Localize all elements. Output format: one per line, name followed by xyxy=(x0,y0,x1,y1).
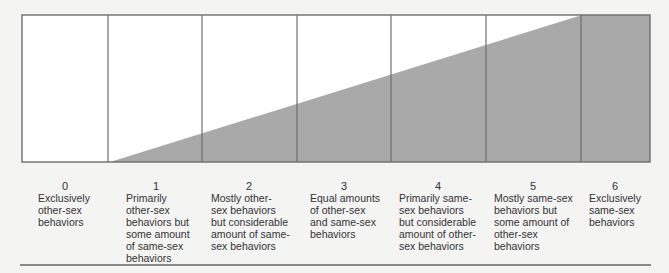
description-line: behaviors xyxy=(38,216,130,228)
kinsey-scale-diagram: 0Exclusivelyother-sexbehaviors1Primarily… xyxy=(0,0,669,273)
description-line: other-sex xyxy=(126,204,218,216)
description-line: other-sex xyxy=(38,204,130,216)
description-line: but considerable xyxy=(211,216,303,228)
description-line: amount of other- xyxy=(399,228,491,240)
description-line: but considerable xyxy=(399,216,491,228)
scale-value-4: 4 xyxy=(428,180,448,192)
scale-description-3: Equal amountsof other-sexand same-sexbeh… xyxy=(310,192,402,240)
description-line: sex behaviors xyxy=(211,240,303,252)
description-line: and same-sex xyxy=(310,216,402,228)
scale-description-0: Exclusivelyother-sexbehaviors xyxy=(38,192,130,228)
description-line: behaviors xyxy=(494,240,586,252)
scale-value-2: 2 xyxy=(239,180,259,192)
description-line: of other-sex xyxy=(310,204,402,216)
description-line: behaviors but xyxy=(126,216,218,228)
description-line: Mostly same-sex xyxy=(494,192,586,204)
scale-description-2: Mostly other-sex behaviorsbut considerab… xyxy=(211,192,303,252)
scale-description-6: Exclusivelysame-sexbehaviors xyxy=(589,192,669,228)
description-line: some amount xyxy=(126,228,218,240)
description-line: of same-sex xyxy=(126,240,218,252)
description-line: Mostly other- xyxy=(211,192,303,204)
bottom-rule xyxy=(20,264,651,266)
scale-description-4: Primarily same-sex behaviorsbut consider… xyxy=(399,192,491,252)
description-line: Exclusively xyxy=(38,192,130,204)
description-line: behaviors xyxy=(126,252,218,264)
description-line: amount of same- xyxy=(211,228,303,240)
scale-value-5: 5 xyxy=(523,180,543,192)
scale-description-1: Primarilyother-sexbehaviors butsome amou… xyxy=(126,192,218,264)
description-line: Equal amounts xyxy=(310,192,402,204)
scale-value-3: 3 xyxy=(334,180,354,192)
scale-value-0: 0 xyxy=(55,180,75,192)
description-line: some amount of xyxy=(494,216,586,228)
description-line: behaviors but xyxy=(494,204,586,216)
description-line: Primarily same- xyxy=(399,192,491,204)
scale-value-6: 6 xyxy=(605,180,625,192)
description-line: behaviors xyxy=(310,228,402,240)
scale-description-5: Mostly same-sexbehaviors butsome amount … xyxy=(494,192,586,252)
description-line: sex behaviors xyxy=(399,240,491,252)
description-line: other-sex xyxy=(494,228,586,240)
scale-value-1: 1 xyxy=(146,180,166,192)
description-line: sex behaviors xyxy=(211,204,303,216)
description-line: sex behaviors xyxy=(399,204,491,216)
description-line: same-sex xyxy=(589,204,669,216)
description-line: behaviors xyxy=(589,216,669,228)
description-line: Exclusively xyxy=(589,192,669,204)
description-line: Primarily xyxy=(126,192,218,204)
